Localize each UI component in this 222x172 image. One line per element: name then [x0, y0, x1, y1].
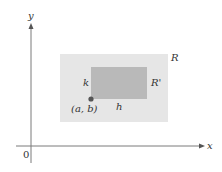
- region-r-prime-label: R': [150, 77, 161, 88]
- corner-point-label: (a, b): [71, 103, 98, 114]
- diagram-canvas: y x 0 R R' k h (a, b): [0, 0, 222, 172]
- y-axis-label: y: [27, 10, 34, 21]
- x-axis-label: x: [207, 140, 213, 151]
- region-r-label: R: [170, 52, 179, 63]
- y-axis-arrow-icon: [29, 23, 34, 29]
- region-r-prime: [91, 67, 147, 99]
- x-axis-arrow-icon: [199, 144, 205, 149]
- corner-point-dot: [88, 96, 93, 101]
- width-label: h: [116, 101, 122, 112]
- height-label: k: [83, 77, 89, 88]
- origin-label: 0: [23, 149, 29, 160]
